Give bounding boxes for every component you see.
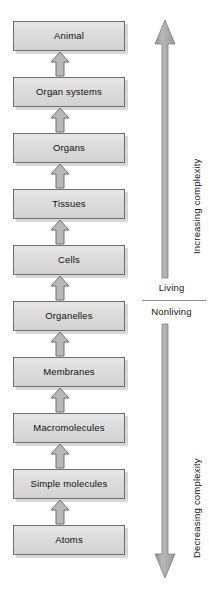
flow-arrow-up [49, 275, 71, 301]
hierarchy-level-organ-systems: Organ systems [13, 77, 125, 107]
hierarchy-level-organs: Organs [13, 133, 125, 163]
hierarchy-level-tissues: Tissues [13, 189, 125, 219]
level-label: Simple molecules [31, 479, 108, 489]
level-box: Cells [13, 245, 125, 275]
flow-arrow-up [49, 443, 71, 469]
decreasing-complexity-label: Decreasing complexity [192, 458, 202, 558]
level-box: Animal [13, 21, 125, 51]
diagram-canvas: Animal Organ systems Organs [0, 0, 209, 595]
hierarchy-level-atoms: Atoms [13, 525, 125, 555]
decreasing-complexity-arrow-icon [152, 322, 178, 580]
flow-arrow-up [49, 331, 71, 357]
level-box: Organelles [13, 301, 125, 331]
hierarchy-level-simple-molecules: Simple molecules [13, 469, 125, 499]
hierarchy-level-membranes: Membranes [13, 357, 125, 387]
level-box: Atoms [13, 525, 125, 555]
level-label: Atoms [55, 535, 83, 545]
level-box: Organs [13, 133, 125, 163]
flow-arrow-up [49, 387, 71, 413]
level-label: Membranes [43, 367, 95, 377]
flow-arrow-up [49, 163, 71, 189]
level-label: Animal [54, 31, 84, 41]
level-label: Macromolecules [33, 423, 104, 433]
level-label: Organ systems [36, 87, 102, 97]
level-label: Organs [53, 143, 85, 153]
hierarchy-level-cells: Cells [13, 245, 125, 275]
level-label: Cells [58, 255, 80, 265]
hierarchy-level-organelles: Organelles [13, 301, 125, 331]
living-nonliving-divider [142, 300, 206, 301]
biological-hierarchy-column: Animal Organ systems Organs [0, 0, 134, 595]
flow-arrow-up [49, 107, 71, 133]
hierarchy-level-animal: Animal [13, 21, 125, 51]
flow-arrow-up [49, 499, 71, 525]
level-box: Tissues [13, 189, 125, 219]
level-box: Membranes [13, 357, 125, 387]
level-box: Macromolecules [13, 413, 125, 443]
flow-arrow-up [49, 51, 71, 77]
increasing-complexity-arrow-icon [152, 18, 178, 280]
complexity-axis-column: Increasing complexity Living Nonliving D… [134, 0, 209, 595]
flow-arrow-up [49, 219, 71, 245]
level-label: Organelles [45, 311, 92, 321]
level-box: Simple molecules [13, 469, 125, 499]
level-box: Organ systems [13, 77, 125, 107]
level-label: Tissues [52, 199, 85, 209]
hierarchy-level-macromolecules: Macromolecules [13, 413, 125, 443]
living-label: Living [134, 283, 209, 293]
nonliving-label: Nonliving [134, 307, 209, 317]
increasing-complexity-label: Increasing complexity [192, 158, 202, 254]
